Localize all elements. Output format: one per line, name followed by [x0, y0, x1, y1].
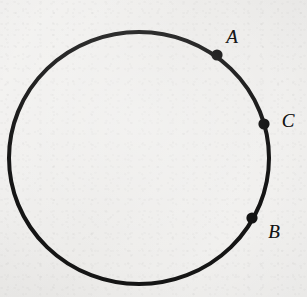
circle-diagram-canvas: [0, 0, 307, 297]
circle-outline: [9, 32, 269, 284]
point-dot-c: [258, 118, 269, 129]
point-dot-a: [211, 49, 222, 60]
point-label-b: B: [268, 222, 280, 241]
point-label-c: C: [282, 111, 295, 130]
point-dot-b: [246, 212, 257, 223]
geometry-figure: A C B: [0, 0, 307, 297]
point-label-a: A: [226, 27, 238, 46]
